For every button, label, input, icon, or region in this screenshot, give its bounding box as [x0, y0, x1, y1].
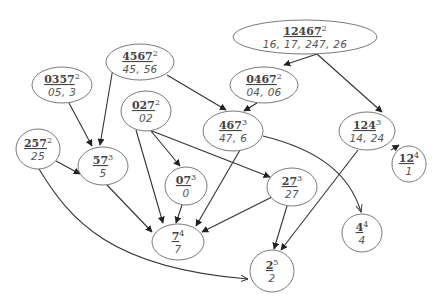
- node-label: 12: [399, 152, 414, 165]
- node-sublabel: 47, 6: [219, 132, 247, 144]
- node-0357: 0357205, 3: [32, 67, 92, 103]
- node-2: 252: [250, 250, 294, 292]
- edge-12467-to-0467: [284, 54, 317, 65]
- node-level-superscript: 3: [242, 118, 247, 127]
- node-level-superscript: 3: [191, 173, 196, 182]
- edge-4567-to-57: [100, 68, 113, 145]
- node-label: 124: [353, 119, 376, 132]
- node-sublabel: 27: [285, 188, 299, 200]
- node-0467: 0467204, 06: [230, 67, 298, 103]
- node-sublabel: 05, 3: [48, 86, 76, 98]
- node-level-superscript: 2: [155, 98, 160, 107]
- node-level-superscript: 2: [75, 72, 80, 81]
- node-title: 45672: [122, 49, 158, 63]
- node-title: 04672: [246, 72, 282, 86]
- node-label: 12467: [283, 25, 321, 38]
- node-027: 027202: [121, 91, 171, 131]
- node-level-superscript: 3: [297, 174, 302, 183]
- node-level-superscript: 5: [273, 258, 278, 267]
- node-sublabel: 2: [269, 272, 276, 284]
- node-sublabel: 25: [31, 150, 45, 162]
- node-label: 0357: [44, 73, 75, 86]
- node-label: 4567: [122, 50, 153, 63]
- node-12467: 12467216, 17, 247, 26: [233, 20, 377, 54]
- node-57: 5735: [78, 147, 128, 185]
- node-12: 1241: [392, 146, 426, 182]
- node-27: 27327: [267, 168, 317, 206]
- node-sublabel: 0: [183, 187, 190, 199]
- node-sublabel: 5: [100, 167, 107, 179]
- node-label: 0467: [246, 73, 277, 86]
- node-level-superscript: 4: [179, 229, 184, 238]
- node-label: 027: [132, 99, 155, 112]
- node-level-superscript: 2: [153, 49, 158, 58]
- node-label: 467: [219, 119, 242, 132]
- node-sublabel: 4: [359, 234, 366, 246]
- node-257: 257225: [16, 129, 60, 169]
- node-4: 444: [342, 214, 382, 252]
- node-label: 257: [24, 137, 47, 150]
- node-sublabel: 04, 06: [246, 86, 281, 98]
- node-sublabel: 16, 17, 247, 26: [263, 38, 348, 50]
- edge-12467-to-124: [317, 54, 382, 112]
- graph-canvas: 12467216, 17, 247, 264567245, 560357205,…: [0, 0, 439, 299]
- edge-124-to-12: [391, 145, 399, 150]
- node-label: 7: [172, 230, 180, 243]
- node-07: 0730: [165, 167, 207, 205]
- edge-57-to-7: [107, 185, 152, 232]
- node-level-superscript: 2: [47, 136, 52, 145]
- node-level-superscript: 3: [376, 118, 381, 127]
- node-level-superscript: 2: [277, 72, 282, 81]
- node-level-superscript: 3: [108, 153, 113, 162]
- node-4567: 4567245, 56: [106, 44, 174, 80]
- node-7: 747: [152, 224, 204, 260]
- edge-027-to-7: [136, 130, 163, 223]
- node-sublabel: 45, 56: [122, 63, 157, 75]
- node-sublabel: 14, 24: [349, 132, 384, 144]
- edge-27-to-7: [202, 197, 272, 232]
- node-level-superscript: 4: [414, 151, 419, 160]
- edge-0467-to-467: [244, 103, 257, 111]
- edge-07-to-7: [176, 205, 182, 223]
- node-sublabel: 7: [175, 243, 182, 255]
- node-label: 57: [93, 154, 108, 167]
- node-label: 27: [282, 175, 297, 188]
- nodes-layer: 12467216, 17, 247, 264567245, 560357205,…: [16, 20, 426, 292]
- node-label: 07: [176, 174, 191, 187]
- edge-257-to-2: [39, 169, 248, 279]
- node-title: 124672: [283, 24, 326, 38]
- node-level-superscript: 4: [363, 220, 368, 229]
- edge-4567-to-467: [167, 75, 226, 110]
- node-124: 124314, 24: [339, 112, 395, 150]
- node-sublabel: 1: [406, 165, 413, 177]
- edge-0357-to-57: [69, 103, 92, 146]
- node-467: 467347, 6: [203, 111, 263, 151]
- node-label: 2: [266, 259, 274, 272]
- edge-257-to-57: [56, 161, 80, 174]
- node-title: 03572: [44, 72, 80, 86]
- node-level-superscript: 2: [322, 24, 327, 33]
- edge-27-to-2: [274, 206, 287, 249]
- node-sublabel: 02: [139, 112, 153, 124]
